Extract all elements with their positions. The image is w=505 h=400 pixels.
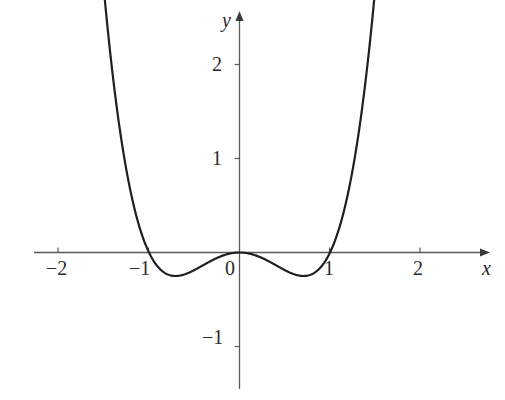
y-axis-ticks bbox=[235, 65, 240, 347]
y-tick-label-minus1: −1 bbox=[202, 327, 223, 347]
y-tick-label-2: 2 bbox=[212, 54, 222, 74]
function-graph-figure: −2 −1 0 1 2 2 1 −1 x y bbox=[0, 0, 505, 400]
x-tick-label-2: 2 bbox=[413, 258, 423, 278]
plot-canvas bbox=[0, 0, 505, 400]
x-axis-label: x bbox=[482, 258, 491, 278]
x-tick-label-minus1: −1 bbox=[129, 258, 150, 278]
y-axis-label: y bbox=[222, 10, 231, 30]
x-tick-label-1: 1 bbox=[324, 258, 334, 278]
x-tick-label-minus2: −2 bbox=[46, 258, 67, 278]
y-tick-label-1: 1 bbox=[212, 148, 222, 168]
origin-label: 0 bbox=[225, 258, 235, 278]
